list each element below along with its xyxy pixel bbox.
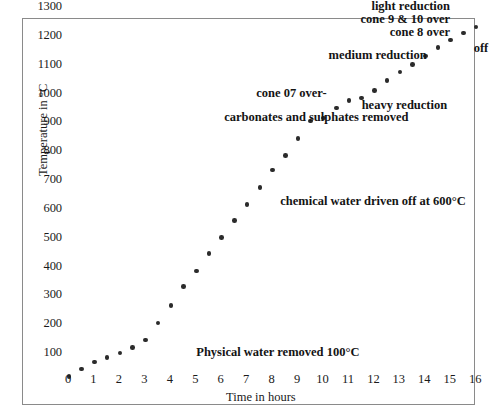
x-tick-label: 14 bbox=[412, 373, 436, 385]
data-point bbox=[474, 25, 479, 30]
y-axis-title: Temperature in °C bbox=[36, 84, 51, 176]
data-point bbox=[347, 98, 352, 103]
data-point bbox=[232, 218, 237, 223]
data-point bbox=[79, 367, 84, 372]
annotation-light-reduction: light reduction bbox=[371, 0, 450, 13]
y-tick-label: 100 bbox=[0, 346, 62, 358]
data-point bbox=[245, 202, 250, 207]
x-tick-label: 0 bbox=[56, 373, 80, 385]
y-tick-label: 300 bbox=[0, 288, 62, 300]
y-tick-label: 1300 bbox=[0, 0, 62, 12]
data-point bbox=[105, 355, 110, 360]
data-point bbox=[143, 338, 148, 343]
y-tick-label: 400 bbox=[0, 260, 62, 272]
x-tick-label: 4 bbox=[158, 373, 182, 385]
annotation-carbonates-sulphates: carbonates and sulphates removed bbox=[224, 111, 408, 124]
y-tick-label: 700 bbox=[0, 173, 62, 185]
annotation-cone-8-over: cone 8 over bbox=[390, 26, 450, 39]
y-tick-label: 1000 bbox=[0, 87, 62, 99]
data-point bbox=[296, 136, 301, 141]
y-tick-label: 800 bbox=[0, 144, 62, 156]
annotation-chemical-water: chemical water driven off at 600°C bbox=[280, 195, 466, 208]
y-tick-label: 500 bbox=[0, 231, 62, 243]
x-tick-label: 16 bbox=[463, 373, 487, 385]
plot-area: light reductioncone 9 & 10 overcone 8 ov… bbox=[22, 18, 475, 405]
x-tick-label: 9 bbox=[285, 373, 309, 385]
x-tick-label: 10 bbox=[311, 373, 335, 385]
annotation-off: off bbox=[474, 42, 489, 55]
data-point bbox=[385, 78, 390, 83]
data-point bbox=[410, 62, 415, 67]
y-tick-label: 200 bbox=[0, 317, 62, 329]
data-point bbox=[436, 45, 441, 50]
x-tick-label: 1 bbox=[81, 373, 105, 385]
data-point bbox=[92, 360, 97, 365]
data-point bbox=[118, 351, 123, 356]
x-tick-label: 2 bbox=[107, 373, 131, 385]
y-tick-label: 1200 bbox=[0, 29, 62, 41]
x-tick-label: 11 bbox=[336, 373, 360, 385]
data-point bbox=[219, 235, 224, 240]
x-tick-label: 15 bbox=[438, 373, 462, 385]
annotation-physical-water: Physical water removed 100°C bbox=[196, 346, 359, 359]
y-tick-label: 900 bbox=[0, 115, 62, 127]
annotation-cone-07-over: cone 07 over- bbox=[256, 87, 326, 100]
data-point bbox=[207, 251, 212, 256]
data-point bbox=[270, 168, 275, 173]
x-axis-title: Time in hours bbox=[226, 390, 296, 405]
data-point bbox=[156, 321, 161, 326]
annotation-cone-9-10-over: cone 9 & 10 over bbox=[360, 13, 450, 26]
data-point bbox=[169, 303, 174, 308]
data-point bbox=[398, 70, 403, 75]
y-tick-label: 600 bbox=[0, 202, 62, 214]
data-point bbox=[194, 269, 199, 274]
figure: light reductioncone 9 & 10 overcone 8 ov… bbox=[0, 0, 491, 418]
annotation-medium-reduction: medium reduction bbox=[329, 49, 427, 62]
x-tick-label: 8 bbox=[260, 373, 284, 385]
x-tick-label: 3 bbox=[132, 373, 156, 385]
data-point bbox=[372, 88, 377, 93]
x-tick-label: 12 bbox=[361, 373, 385, 385]
x-tick-label: 7 bbox=[234, 373, 258, 385]
x-tick-label: 6 bbox=[209, 373, 233, 385]
data-point bbox=[181, 284, 186, 289]
y-tick-label: 1100 bbox=[0, 58, 62, 70]
data-point bbox=[283, 153, 288, 158]
x-tick-label: 13 bbox=[387, 373, 411, 385]
x-tick-label: 5 bbox=[183, 373, 207, 385]
data-point bbox=[461, 31, 466, 36]
data-point bbox=[130, 345, 135, 350]
data-point bbox=[258, 185, 263, 190]
